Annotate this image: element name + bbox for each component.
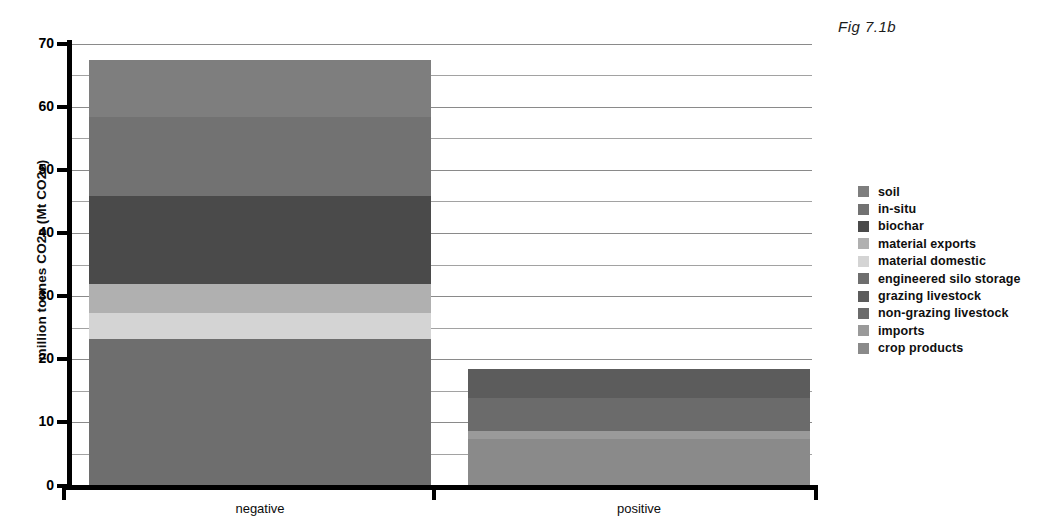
bar-segment-negative-material-exports [89,284,431,313]
legend-item-grazing-livestock[interactable]: grazing livestock [858,287,1021,304]
legend-item-label: grazing livestock [878,289,981,303]
y-axis-tick-label-30: 30 [20,287,54,303]
legend-item-label: crop products [878,341,963,355]
legend-item-material-exports[interactable]: material exports [858,235,1021,252]
bar-segment-positive-non-grazing-livestock [468,398,810,431]
y-axis-tick-10 [57,420,72,424]
bar-positive [468,369,810,485]
legend-swatch-icon [858,256,869,267]
legend-swatch-icon [858,204,869,215]
legend-swatch-icon [858,291,869,302]
y-axis-tick-40 [57,231,72,235]
bar-segment-negative-in-situ [89,117,431,196]
legend-item-material-domestic[interactable]: material domestic [858,253,1021,270]
y-axis-tick-label-40: 40 [20,224,54,240]
bar-negative [89,60,431,486]
legend-item-label: imports [878,324,925,338]
bar-segment-negative-engineered-silo-storage [89,339,431,485]
x-axis-label-positive: positive [559,501,719,516]
y-axis-tick-50 [57,168,72,172]
y-axis-tick-label-10: 10 [20,413,54,429]
legend-item-crop-products[interactable]: crop products [858,340,1021,357]
y-axis-tick-70 [57,42,72,46]
chart-legend: soilin-situbiocharmaterial exportsmateri… [858,183,1021,357]
legend-swatch-icon [858,325,869,336]
legend-item-label: material exports [878,237,976,251]
y-axis-tick-label-0: 0 [20,477,54,493]
legend-item-biochar[interactable]: biochar [858,218,1021,235]
y-axis-tick-label-60: 60 [20,98,54,114]
legend-item-in-situ[interactable]: in-situ [858,200,1021,217]
y-axis-tick-label-50: 50 [20,161,54,177]
bar-segment-negative-biochar [89,196,431,284]
gridline-70 [72,44,812,45]
legend-swatch-icon [858,308,869,319]
legend-swatch-icon [858,343,869,354]
legend-item-soil[interactable]: soil [858,183,1021,200]
legend-swatch-icon [858,186,869,197]
x-axis-tick-2 [814,485,818,500]
legend-item-label: soil [878,185,900,199]
x-axis-tick-1 [432,485,436,500]
x-axis-tick-0 [62,485,66,500]
legend-swatch-icon [858,273,869,284]
legend-item-non-grazing-livestock[interactable]: non-grazing livestock [858,305,1021,322]
legend-item-imports[interactable]: imports [858,322,1021,339]
legend-item-label: biochar [878,219,924,233]
legend-swatch-icon [858,221,869,232]
x-axis-spine [62,485,818,490]
legend-swatch-icon [858,238,869,249]
legend-item-engineered-silo-storage[interactable]: engineered silo storage [858,270,1021,287]
bar-segment-positive-grazing-livestock [468,369,810,397]
bar-segment-negative-soil [89,60,431,117]
bar-segment-positive-imports [468,431,810,439]
y-axis-tick-20 [57,357,72,361]
bar-segment-negative-material-domestic [89,313,431,339]
legend-item-label: non-grazing livestock [878,306,1009,320]
y-axis-tick-60 [57,105,72,109]
bar-segment-positive-crop-products [468,439,810,486]
legend-item-label: engineered silo storage [878,272,1021,286]
y-axis-tick-label-70: 70 [20,35,54,51]
legend-item-label: in-situ [878,202,916,216]
y-axis-tick-label-20: 20 [20,350,54,366]
y-axis-title: million tonnes CO2e (Mt CO2e) [30,0,52,520]
y-axis-tick-30 [57,294,72,298]
legend-item-label: material domestic [878,254,986,268]
figure-caption: Fig 7.1b [838,18,896,35]
x-axis-label-negative: negative [180,501,340,516]
